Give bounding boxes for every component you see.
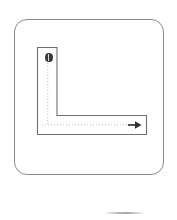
- start-position-marker: [45, 53, 53, 63]
- rounded-square-boundary: [14, 19, 164, 175]
- bottom-shadow-line: [104, 212, 146, 214]
- diagram-canvas: [0, 0, 177, 220]
